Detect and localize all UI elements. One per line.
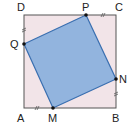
label-a: A bbox=[17, 112, 25, 124]
point-n bbox=[114, 77, 118, 81]
label-b: B bbox=[112, 112, 119, 124]
label-p: P bbox=[82, 1, 89, 13]
point-m bbox=[51, 106, 55, 110]
point-q bbox=[22, 42, 26, 46]
label-q: Q bbox=[10, 38, 19, 50]
label-n: N bbox=[119, 73, 127, 85]
label-m: M bbox=[48, 112, 57, 124]
geometry-diagram: D C A B P Q M N bbox=[0, 0, 135, 139]
label-c: C bbox=[115, 1, 123, 13]
point-p bbox=[84, 13, 88, 17]
label-d: D bbox=[17, 1, 25, 13]
